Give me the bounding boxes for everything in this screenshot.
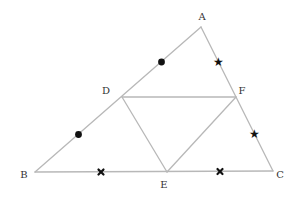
triangle-diagram: ★★ ABCDEF bbox=[0, 0, 300, 197]
vertex-labels: ABCDEF bbox=[20, 11, 284, 190]
vertex-label-C: C bbox=[276, 169, 284, 180]
dot-mark-DB bbox=[75, 131, 82, 138]
vertex-label-A: A bbox=[197, 11, 206, 22]
equal-length-marks: ★★ bbox=[75, 55, 260, 175]
vertex-label-B: B bbox=[20, 169, 27, 180]
star-mark-AF: ★ bbox=[213, 55, 224, 69]
vertex-label-F: F bbox=[239, 85, 246, 96]
vertex-label-E: E bbox=[160, 179, 167, 190]
edges bbox=[35, 27, 273, 172]
segment-BC bbox=[35, 171, 273, 172]
star-mark-FC: ★ bbox=[249, 127, 260, 141]
dot-mark-AD bbox=[158, 59, 165, 66]
segment-AB bbox=[35, 27, 201, 172]
segment-EF bbox=[167, 97, 236, 172]
vertex-label-D: D bbox=[102, 85, 110, 96]
segment-CA bbox=[201, 27, 273, 171]
diagram-canvas: ★★ ABCDEF bbox=[0, 0, 300, 197]
segment-DE bbox=[122, 97, 167, 172]
